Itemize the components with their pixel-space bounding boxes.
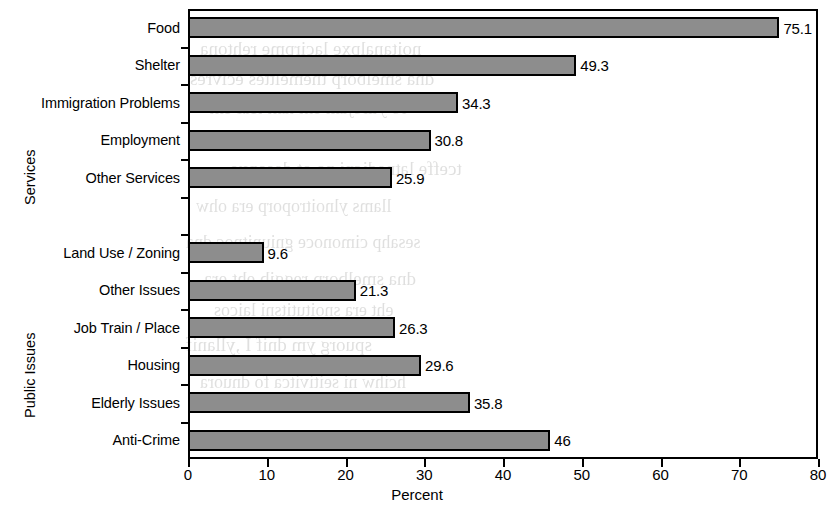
bar bbox=[188, 242, 264, 263]
y-axis-tick bbox=[181, 272, 189, 274]
y-axis-tick bbox=[181, 197, 189, 199]
bar-value-label: 34.3 bbox=[462, 94, 490, 111]
bar bbox=[188, 167, 392, 188]
x-axis-tick-label: 60 bbox=[652, 466, 669, 483]
x-axis-tick-label: 0 bbox=[184, 466, 192, 483]
bar-value-label: 35.8 bbox=[474, 394, 502, 411]
bar-row: 34.3 bbox=[188, 92, 818, 113]
bar-value-label: 75.1 bbox=[783, 19, 811, 36]
bar-row: 30.8 bbox=[188, 130, 818, 151]
y-axis-tick bbox=[181, 47, 189, 49]
bar bbox=[188, 355, 421, 376]
category-label: Elderly Issues bbox=[91, 396, 180, 411]
bar bbox=[188, 130, 431, 151]
group-title-public-issues: Public Issues bbox=[22, 333, 38, 418]
bar bbox=[188, 17, 779, 38]
y-axis-tick bbox=[181, 84, 189, 86]
group-title-services: Services bbox=[22, 149, 38, 205]
y-axis-tick bbox=[181, 384, 189, 386]
bar-chart: 75.149.334.330.825.99.621.326.329.635.84… bbox=[0, 0, 834, 509]
bar-value-label: 46 bbox=[554, 432, 570, 449]
bar bbox=[188, 92, 458, 113]
bar-row: 75.1 bbox=[188, 17, 818, 38]
bar-row: 25.9 bbox=[188, 167, 818, 188]
y-axis-tick bbox=[181, 347, 189, 349]
category-label: Anti-Crime bbox=[113, 433, 180, 448]
bar bbox=[188, 392, 470, 413]
category-label: Immigration Problems bbox=[41, 96, 180, 111]
y-axis-tick bbox=[181, 122, 189, 124]
y-axis-tick bbox=[181, 159, 189, 161]
x-axis-tick-label: 80 bbox=[810, 466, 827, 483]
x-axis-tick-label: 50 bbox=[573, 466, 590, 483]
category-label: Food bbox=[147, 21, 180, 36]
bar bbox=[188, 430, 550, 451]
bar-row: 21.3 bbox=[188, 280, 818, 301]
y-axis-tick bbox=[181, 309, 189, 311]
x-axis-tick-label: 40 bbox=[495, 466, 512, 483]
bar-row: 26.3 bbox=[188, 317, 818, 338]
category-label: Other Services bbox=[86, 171, 181, 186]
bar-value-label: 21.3 bbox=[360, 282, 388, 299]
x-axis-tick-label: 30 bbox=[416, 466, 433, 483]
category-label: Shelter bbox=[135, 58, 180, 73]
bar-value-label: 25.9 bbox=[396, 169, 424, 186]
category-label: Housing bbox=[128, 358, 181, 373]
y-axis-tick bbox=[181, 422, 189, 424]
bar bbox=[188, 317, 395, 338]
bar-row: 35.8 bbox=[188, 392, 818, 413]
bar-value-label: 29.6 bbox=[425, 357, 453, 374]
category-label: Job Train / Place bbox=[74, 321, 180, 336]
category-label: Employment bbox=[100, 133, 180, 148]
bar-value-label: 49.3 bbox=[580, 57, 608, 74]
bar bbox=[188, 55, 576, 76]
bar-row: 9.6 bbox=[188, 242, 818, 263]
category-label: Other Issues bbox=[99, 283, 180, 298]
bar-value-label: 9.6 bbox=[268, 244, 288, 261]
x-axis-tick-label: 70 bbox=[731, 466, 748, 483]
y-axis-tick bbox=[181, 234, 189, 236]
bar-row: 49.3 bbox=[188, 55, 818, 76]
bar-row: 46 bbox=[188, 430, 818, 451]
bar bbox=[188, 280, 356, 301]
x-axis-tick-label: 20 bbox=[337, 466, 354, 483]
bar-row: 29.6 bbox=[188, 355, 818, 376]
x-axis-title: Percent bbox=[0, 486, 834, 503]
x-axis-tick-label: 10 bbox=[258, 466, 275, 483]
bar-value-label: 26.3 bbox=[399, 319, 427, 336]
category-label: Land Use / Zoning bbox=[63, 246, 180, 261]
bar-value-label: 30.8 bbox=[435, 132, 463, 149]
